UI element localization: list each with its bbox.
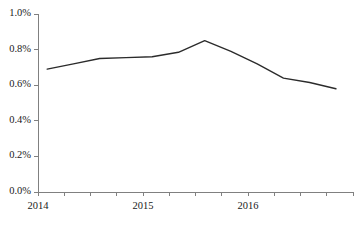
y-axis-tick-label: 1.0% [9, 8, 31, 19]
line-chart: 0.0%0.2%0.4%0.6%0.8%1.0% 201420152016 [0, 0, 359, 234]
y-axis-ticks [34, 14, 38, 192]
x-axis-tick-label: 2014 [18, 201, 58, 212]
y-axis-tick-label: 0.6% [9, 79, 31, 90]
x-axis [38, 192, 353, 196]
y-axis-tick-label: 0.0% [9, 186, 31, 197]
y-axis-tick-label: 0.8% [9, 44, 31, 55]
x-axis-ticks [38, 192, 353, 196]
x-axis-tick-label: 2015 [123, 201, 163, 212]
data-series-line [47, 41, 336, 89]
y-axis-tick-label: 0.4% [9, 115, 31, 126]
y-axis-tick-label: 0.2% [9, 150, 31, 161]
chart-plot-area [0, 0, 359, 234]
x-axis-tick-label: 2016 [228, 201, 268, 212]
y-axis [34, 14, 38, 192]
